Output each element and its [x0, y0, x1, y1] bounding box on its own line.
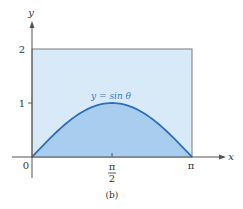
x-axis-label: x	[228, 151, 234, 162]
y-tick-label-1: 1	[19, 98, 25, 109]
figure-caption: (b)	[106, 190, 119, 200]
sine-area-figure: y x 2 1 0 π 2 π y = sin θ (b)	[0, 0, 243, 209]
y-axis-label: y	[27, 7, 34, 18]
y-tick-label-2: 2	[19, 44, 25, 55]
x-tick-label-pi: π	[188, 160, 195, 171]
origin-label: 0	[23, 160, 29, 171]
y-axis-arrow-icon	[30, 21, 35, 28]
x-tick-label-half-pi-numerator: π	[109, 161, 116, 172]
x-tick-label-half-pi-denominator: 2	[109, 173, 115, 184]
curve-label: y = sin θ	[90, 91, 132, 101]
x-axis-arrow-icon	[219, 155, 226, 160]
